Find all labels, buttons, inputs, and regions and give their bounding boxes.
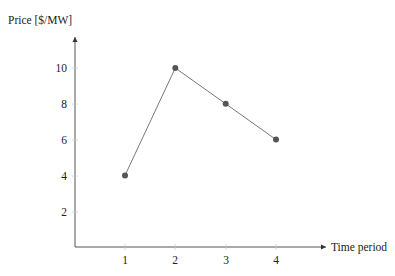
x-tick-label: 2: [172, 254, 178, 266]
y-tick-label: 8: [61, 98, 67, 110]
x-axis-label: Time period: [331, 241, 387, 254]
data-point-marker: [172, 65, 178, 71]
data-point-marker: [273, 137, 279, 143]
price-line-chart: Price [$/MW] Time period 2 4 6 8 10 1 2 …: [0, 0, 395, 276]
y-tick-label: 2: [61, 206, 67, 218]
y-tick-label: 4: [61, 170, 67, 182]
x-tick-label: 3: [223, 254, 229, 266]
y-tick-label: 10: [56, 62, 68, 74]
y-tick-label: 6: [61, 134, 67, 146]
series-line: [125, 68, 276, 175]
data-point-marker: [223, 101, 229, 107]
x-tick-label: 4: [273, 254, 279, 266]
x-tick-label: 1: [122, 254, 128, 266]
y-axis-label: Price [$/MW]: [8, 14, 72, 26]
data-point-marker: [122, 172, 128, 178]
price-series: [122, 65, 279, 178]
